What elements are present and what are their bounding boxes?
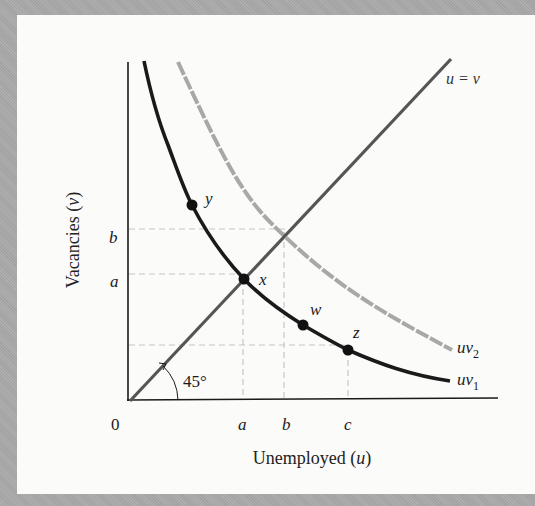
x-tick-a: a (238, 415, 247, 434)
uv2-label: uv2 (457, 338, 479, 361)
point-label-y: y (203, 189, 213, 208)
point-label-z: z (352, 323, 360, 342)
point-y (187, 200, 198, 211)
diagonal-label: u = v (446, 70, 481, 87)
uv1-label: uv1 (457, 370, 479, 393)
x-tick-c: c (344, 415, 352, 434)
point-z (343, 345, 354, 356)
diagonal-u-equals-v (130, 59, 451, 401)
point-x (239, 274, 250, 285)
beveridge-diagram: y x w z u = v 45° uv2 uv1 b a 0 a b c Un… (0, 0, 535, 506)
point-label-w: w (310, 300, 322, 319)
angle-label: 45° (183, 372, 207, 391)
x-axis-title: Unemployed (u) (253, 448, 371, 469)
y-axis-title: Vacancies (v) (63, 192, 84, 288)
x-tick-b: b (282, 415, 291, 434)
point-w (298, 320, 309, 331)
y-tick-b: b (109, 228, 118, 247)
origin-label: 0 (111, 415, 120, 434)
point-label-x: x (258, 270, 267, 289)
x-axis (127, 398, 498, 400)
y-tick-a: a (110, 272, 119, 291)
angle-arc (163, 366, 178, 400)
